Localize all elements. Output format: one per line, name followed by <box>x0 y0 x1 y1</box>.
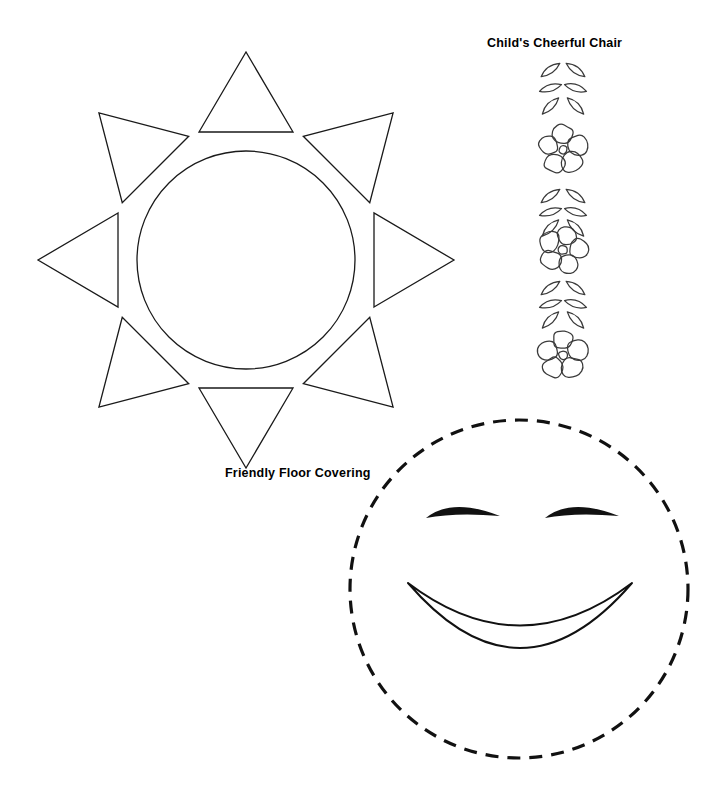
vine-leaf <box>567 312 583 328</box>
face-eye-left <box>426 507 500 518</box>
vine-leaf <box>565 208 587 216</box>
vine-leaf <box>566 281 585 294</box>
flower-petal <box>544 154 565 172</box>
sun-center-circle <box>137 151 355 369</box>
flower-center <box>559 146 567 154</box>
pattern-artwork <box>0 0 727 790</box>
vine-leaf <box>566 63 585 76</box>
floral-vine-strip <box>537 63 588 377</box>
vine-leaf <box>542 98 558 114</box>
face-mouth <box>408 583 632 648</box>
flower-petal <box>540 250 561 269</box>
vine-leaf <box>565 300 587 308</box>
flower-petal <box>557 227 576 245</box>
face-eyes <box>426 507 619 518</box>
flower-center <box>558 246 567 254</box>
vine-leaf <box>540 300 562 308</box>
flower-center <box>559 351 568 359</box>
flower-petal <box>554 331 573 348</box>
vine-leaf <box>541 281 560 294</box>
sun-ray <box>374 213 454 307</box>
face-dashed-outline <box>350 420 688 758</box>
vine-leaf <box>566 189 585 202</box>
sun-rays <box>38 52 454 468</box>
vine-leaf <box>541 63 560 76</box>
vine-leaf <box>565 84 587 92</box>
flower-petal <box>561 151 583 172</box>
flower-petal <box>568 135 588 155</box>
sun-pattern <box>38 52 454 468</box>
vine-leaf <box>567 98 583 114</box>
sun-ray <box>303 317 393 407</box>
sun-ray <box>38 213 118 307</box>
sun-ray <box>199 388 293 468</box>
smiley-face-pattern <box>350 420 688 758</box>
pattern-sheet: Child's Cheerful Chair Friendly Floor Co… <box>0 0 727 790</box>
caption-friendly-floor-covering: Friendly Floor Covering <box>225 466 371 480</box>
flower-petal <box>539 136 558 154</box>
sun-ray <box>303 113 393 203</box>
vine-leaf <box>540 84 562 92</box>
sun-ray <box>99 317 189 407</box>
face-eye-right <box>545 507 619 518</box>
flower-petal <box>561 358 583 378</box>
vine-leaf <box>542 312 558 328</box>
vine-leaf <box>541 189 560 202</box>
sun-ray <box>199 52 293 132</box>
sun-ray <box>99 113 189 203</box>
caption-childs-cheerful-chair: Child's Cheerful Chair <box>487 36 622 50</box>
vine-leaf <box>540 208 562 216</box>
